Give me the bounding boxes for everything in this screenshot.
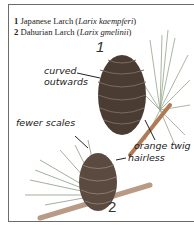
legend-item-2: 2 Dahurian Larch (Larix gmelinii) (14, 27, 136, 38)
annotation-fewer-scales: fewer scales (16, 118, 75, 129)
annotation-orange-twig: orange twig (134, 141, 191, 152)
legend-number: 2 (14, 27, 18, 37)
legend: 1 Japanese Larch (Larix kaempferi) 2 Dah… (14, 16, 136, 37)
legend-item-1: 1 Japanese Larch (Larix kaempferi) (14, 16, 136, 27)
cone-1 (98, 55, 146, 135)
legend-number: 1 (14, 16, 18, 26)
latin-name: Larix gmelinii (80, 27, 129, 37)
common-name: Dahurian Larch (20, 27, 74, 37)
annotation-curved-outwards: curved outwards (44, 66, 88, 87)
annotation-hairless: hairless (128, 153, 165, 164)
figure-number-1: 1 (96, 38, 104, 55)
latin-name: Larix kaempferi (78, 16, 133, 26)
annotation-line: outwards (44, 77, 88, 88)
common-name: Japanese Larch (20, 16, 73, 26)
annotation-line: curved (44, 66, 88, 77)
figure-number-2: 2 (108, 198, 116, 215)
